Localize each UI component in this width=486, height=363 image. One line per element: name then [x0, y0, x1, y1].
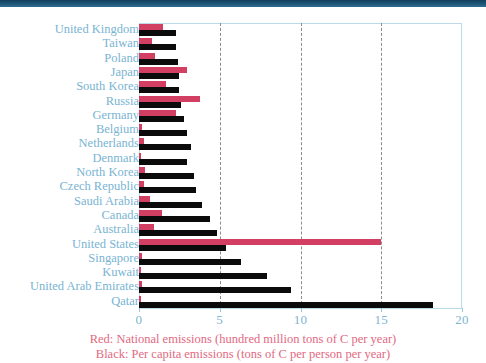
category-label: United States	[4, 237, 139, 252]
bar-per-capita-emissions	[139, 230, 217, 236]
header-rule	[0, 0, 486, 7]
bar-per-capita-emissions	[139, 302, 433, 308]
bar-per-capita-emissions	[139, 30, 176, 36]
bar-per-capita-emissions	[139, 87, 179, 93]
legend-line-black: Black: Per capita emissions (tons of C p…	[0, 347, 486, 362]
bar-per-capita-emissions	[139, 59, 178, 65]
bar-per-capita-emissions	[139, 202, 202, 208]
bar-per-capita-emissions	[139, 273, 267, 279]
category-label: Japan	[4, 65, 139, 80]
x-tick-label-0: 0	[136, 312, 143, 328]
bar-per-capita-emissions	[139, 102, 181, 108]
category-label: Taiwan	[4, 36, 139, 51]
category-label: Belgium	[4, 122, 139, 137]
category-label: Kuwait	[4, 265, 139, 280]
bar-per-capita-emissions	[139, 44, 176, 50]
category-label: Singapore	[4, 251, 139, 266]
bar-per-capita-emissions	[139, 173, 194, 179]
category-label: Poland	[4, 51, 139, 66]
bar-row: Qatar	[0, 296, 486, 311]
category-label: Czech Republic	[4, 179, 139, 194]
category-label: Australia	[4, 222, 139, 237]
chart-legend: Red: National emissions (hundred million…	[0, 332, 486, 362]
bar-per-capita-emissions	[139, 216, 210, 222]
emissions-bar-chart: United KingdomTaiwanPolandJapanSouth Kor…	[0, 9, 486, 363]
category-label: Germany	[4, 108, 139, 123]
category-label: Canada	[4, 208, 139, 223]
category-label: Netherlands	[4, 136, 139, 151]
x-tick-label-5: 5	[216, 312, 223, 328]
category-label: South Korea	[4, 79, 139, 94]
x-tick-label-20: 20	[455, 312, 469, 328]
bar-per-capita-emissions	[139, 245, 226, 251]
category-label: Russia	[4, 94, 139, 109]
category-label: United Arab Emirates	[4, 279, 139, 294]
category-label: North Korea	[4, 165, 139, 180]
bar-per-capita-emissions	[139, 259, 241, 265]
bar-per-capita-emissions	[139, 130, 187, 136]
bar-per-capita-emissions	[139, 187, 196, 193]
x-tick-label-15: 15	[374, 312, 388, 328]
bar-per-capita-emissions	[139, 287, 291, 293]
x-tick-label-10: 10	[294, 312, 308, 328]
category-label: Qatar	[4, 294, 139, 309]
bar-per-capita-emissions	[139, 144, 191, 150]
category-label: Saudi Arabia	[4, 194, 139, 209]
category-label: United Kingdom	[4, 22, 139, 37]
legend-line-red: Red: National emissions (hundred million…	[0, 332, 486, 347]
category-label: Denmark	[4, 151, 139, 166]
bar-per-capita-emissions	[139, 159, 187, 165]
bar-per-capita-emissions	[139, 116, 184, 122]
bar-per-capita-emissions	[139, 73, 179, 79]
